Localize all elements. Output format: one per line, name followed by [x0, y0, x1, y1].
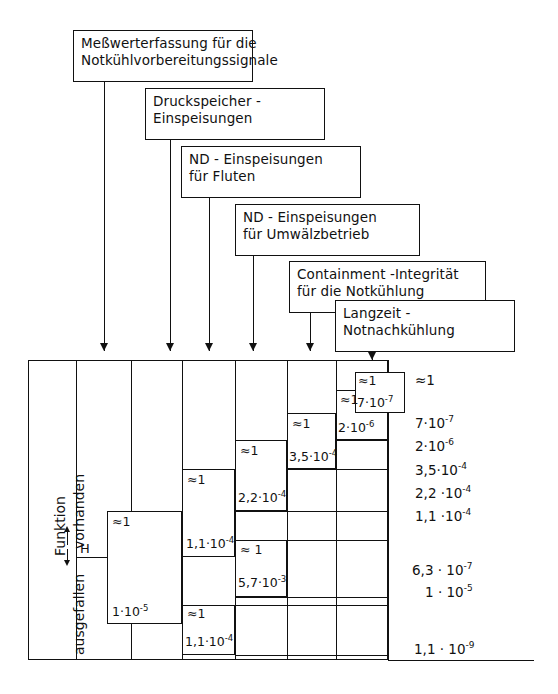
branch-value: ≈1	[292, 416, 310, 431]
tree-column-line-5	[287, 360, 288, 660]
outcome-mantissa: ≈1	[415, 372, 435, 388]
branch-value: ≈ 1	[240, 542, 262, 557]
outcome-exponent: -5	[464, 583, 473, 593]
branch-label-b2-down: 1,1·10-4	[186, 535, 234, 551]
branch-value: 1,1·10	[186, 536, 226, 551]
initiator-label-h: H	[80, 541, 90, 556]
outcome-path-8	[235, 605, 388, 606]
header-line: Notkühlvorbereitungssignale	[81, 52, 245, 69]
outcome-value-1: ≈1	[415, 371, 435, 388]
header-line: Containment -Integrität	[297, 266, 478, 283]
outcome-path-4	[287, 469, 388, 470]
outcome-exponent: -9	[466, 640, 475, 650]
branch-value: 7·10	[357, 395, 385, 410]
branch-exponent: -4	[278, 489, 286, 499]
axis-arrow-up-stem	[67, 531, 68, 545]
branch-label-b1-up: ≈1	[112, 514, 130, 529]
header-line: Druckspeicher -	[153, 93, 317, 110]
drop-arrow-2	[166, 343, 174, 351]
header-line: für Fluten	[189, 168, 353, 185]
branch-exponent: -4	[226, 535, 234, 545]
branch-exponent: -4	[225, 633, 233, 643]
header-line: Langzeit -	[343, 305, 507, 322]
header-box-langzeit: Langzeit - Notnachkühlung	[335, 300, 515, 352]
outcome-mantissa: 7·10	[415, 415, 445, 431]
outcome-path-3	[336, 440, 388, 441]
outcome-path-7	[235, 597, 388, 598]
branch-exponent: -6	[366, 419, 374, 429]
branch-exponent: -3	[278, 574, 286, 584]
branch-value: ≈1	[187, 606, 205, 621]
outcome-value-9: 1,1 · 10-9	[414, 640, 475, 657]
drop-line-1	[104, 82, 105, 351]
outcome-path-5	[235, 511, 388, 512]
diagram-canvas: Meßwerterfassung für die Notkühlvorberei…	[0, 0, 558, 694]
drop-arrow-5	[306, 343, 314, 351]
header-box-nd-umwaelz: ND - Einspeisungen für Umwälzbetrieb	[235, 204, 420, 256]
header-line: Notnachkühlung	[343, 322, 507, 339]
header-box-nd-fluten: ND - Einspeisungen für Fluten	[181, 146, 361, 198]
branch-value: ≈1	[112, 514, 130, 529]
axis-label-vorhanden: vorhanden	[71, 474, 87, 549]
branch-label-b6-up: ≈1	[358, 373, 376, 388]
branch-value: ≈1	[358, 373, 376, 388]
axis-arrow-up	[64, 526, 70, 532]
axis-arrow-down	[64, 560, 70, 566]
branch-label-b7-down: 5,7·10-3	[238, 574, 286, 590]
header-line: für Umwälzbetrieb	[243, 226, 412, 243]
header-box-druckspeicher: Druckspeicher - Einspeisungen	[145, 88, 325, 140]
outcome-mantissa: 6,3 · 10	[412, 562, 464, 578]
branch-exponent: -4	[329, 448, 337, 458]
branch-label-b7-up: ≈ 1	[240, 542, 262, 557]
outcome-exponent: -6	[445, 437, 454, 447]
branch-value: 5,7·10	[238, 575, 278, 590]
header-line: ND - Einspeisungen	[243, 209, 412, 226]
header-line: Meßwerterfassung für die	[81, 35, 245, 52]
drop-arrow-3	[205, 343, 213, 351]
branch-label-b4-down: 3,5·10-4	[289, 448, 337, 464]
outcome-mantissa: 2·10	[415, 438, 445, 454]
outcome-value-6: 1,1 ·10-4	[415, 507, 471, 524]
branch-value: 1·10	[112, 604, 140, 619]
branch-value: 1,1·10	[185, 634, 225, 649]
branch-label-b3-down: 2,2·10-4	[238, 489, 286, 505]
outcome-exponent: -7	[445, 414, 454, 424]
outcome-mantissa: 1,1 · 10	[414, 641, 466, 657]
branch-value: 2,2·10	[238, 490, 278, 505]
branch-label-b3-up: ≈1	[240, 443, 258, 458]
branch-value: ≈1	[187, 472, 205, 487]
outcome-value-7: 6,3 · 10-7	[412, 561, 473, 578]
branch-label-b1-down: 1·10-5	[112, 603, 148, 619]
drop-arrow-1	[100, 343, 108, 351]
header-line: für die Notkühlung	[297, 283, 478, 300]
outcome-path-9	[235, 655, 388, 656]
drop-arrow-4	[249, 343, 257, 351]
branch-label-b6-down: 7·10-7	[357, 394, 393, 410]
outcome-mantissa: 3,5·10	[415, 462, 458, 478]
branch-label-b8-up: ≈1	[187, 606, 205, 621]
drop-line-4	[253, 256, 254, 351]
outcome-mantissa: 1,1 ·10	[415, 508, 462, 524]
branch-value: 3,5·10	[289, 449, 329, 464]
outcome-exponent: -7	[464, 561, 473, 571]
drop-arrow-6	[368, 352, 376, 360]
outcome-exponent: -4	[462, 507, 471, 517]
axis-label-ausgefallen: ausgefallen	[71, 574, 87, 655]
branch-label-b5-up: ≈1	[340, 392, 358, 407]
header-box-messwerterfassung: Meßwerterfassung für die Notkühlvorberei…	[73, 30, 253, 82]
branch-label-b8-down: 1,1·10-4	[185, 633, 233, 649]
outcome-exponent: -4	[458, 461, 467, 471]
branch-exponent: -7	[385, 394, 393, 404]
outcome-value-8: 1 · 10-5	[425, 583, 473, 600]
initiator-stem	[76, 557, 107, 558]
branch-value: ≈1	[240, 443, 258, 458]
outcome-mantissa: 1 · 10	[425, 584, 464, 600]
outcome-value-5: 2,2 ·10-4	[415, 484, 471, 501]
outcome-value-3: 2·10-6	[415, 437, 454, 454]
drop-line-3	[209, 198, 210, 351]
branch-value: ≈1	[340, 392, 358, 407]
outcome-value-4: 3,5·10-4	[415, 461, 467, 478]
branch-label-b2-up: ≈1	[187, 472, 205, 487]
bottom-rule	[388, 660, 534, 661]
drop-line-2	[170, 140, 171, 351]
